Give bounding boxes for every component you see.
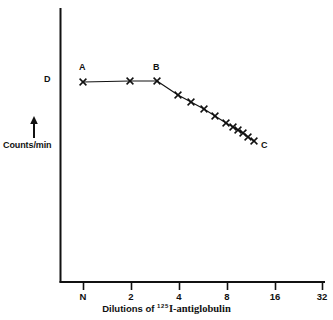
data-point-c <box>251 138 258 145</box>
data-point <box>175 92 182 99</box>
chart-canvas <box>0 0 333 320</box>
x-tick-label-4: 4 <box>176 292 181 302</box>
x-axis-title-suffix: I-antiglobulin <box>169 303 231 314</box>
y-axis-title: Counts/min <box>3 140 52 150</box>
data-point <box>223 120 230 127</box>
up-arrow-icon <box>30 116 38 138</box>
data-curve <box>83 81 254 141</box>
data-point <box>201 106 208 113</box>
x-tick-label-2: 2 <box>128 292 133 302</box>
x-tick-label-n: N <box>80 292 87 302</box>
x-axis-ticks <box>84 282 323 290</box>
data-point <box>245 134 252 141</box>
x-axis-title-prefix: Dilutions of <box>102 303 157 314</box>
point-label-a: A <box>79 63 86 72</box>
x-axis-title-superscript: 125 <box>157 303 169 309</box>
x-tick-label-32: 32 <box>317 292 328 302</box>
point-label-c: C <box>261 141 268 150</box>
data-point-markers <box>80 78 258 145</box>
x-tick-label-16: 16 <box>270 292 281 302</box>
data-point <box>212 113 219 120</box>
x-tick-label-8: 8 <box>224 292 229 302</box>
x-axis-title: Dilutions of 125I-antiglobulin <box>0 303 333 314</box>
data-point <box>188 99 195 106</box>
radioimmunoassay-dilution-chart: D A B C Counts/min N 2 4 8 16 32 Dilutio… <box>0 0 333 320</box>
y-axis-reference-label-d: D <box>44 75 51 84</box>
point-label-b: B <box>153 63 160 72</box>
